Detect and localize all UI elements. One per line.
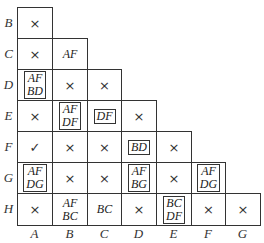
cell-D-A: AF BD xyxy=(17,69,53,101)
cell-H-C: BC xyxy=(87,193,122,226)
cell-F-C: × xyxy=(87,131,122,163)
cell-G-A: AF DG xyxy=(17,162,53,194)
cell-pairs: AF BG xyxy=(128,164,150,192)
cell-G-E: × xyxy=(156,162,192,194)
cell-G-C: × xyxy=(87,162,122,194)
cross-icon: × xyxy=(30,202,41,217)
cell-G-F: AF DG xyxy=(191,162,226,194)
cell-E-A: × xyxy=(17,100,53,132)
row-label-D: D xyxy=(0,69,17,100)
cell-F-A: ✓ xyxy=(17,131,53,163)
col-label-A: A xyxy=(17,226,52,242)
cell-D-B: × xyxy=(52,69,88,101)
cross-icon: × xyxy=(134,202,145,217)
cross-icon: × xyxy=(65,140,76,155)
cross-icon: × xyxy=(99,78,110,93)
cell-H-D: × xyxy=(121,193,157,226)
cell-pairs: AF BC xyxy=(62,197,77,223)
cell-pairs: BC xyxy=(97,203,112,216)
row-label-H: H xyxy=(0,193,17,225)
cross-icon: × xyxy=(30,16,41,31)
cell-D-C: × xyxy=(87,69,122,101)
cell-pairs: AF xyxy=(63,48,78,61)
col-label-C: C xyxy=(87,226,121,242)
cross-icon: × xyxy=(238,202,249,217)
col-label-E: E xyxy=(156,226,191,242)
cross-icon: × xyxy=(30,109,41,124)
cell-pairs: AF DG xyxy=(23,164,46,192)
cross-icon: × xyxy=(99,171,110,186)
cross-icon: × xyxy=(169,140,180,155)
cell-G-D: AF BG xyxy=(121,162,157,194)
cell-E-C: DF xyxy=(87,100,122,132)
cell-pairs: BC DF xyxy=(163,196,185,224)
cell-H-B: AF BC xyxy=(52,193,88,226)
row-label-C: C xyxy=(0,38,17,69)
cell-F-B: × xyxy=(52,131,88,163)
cross-icon: × xyxy=(99,140,110,155)
row-label-E: E xyxy=(0,100,17,131)
col-label-D: D xyxy=(121,226,156,242)
cell-pairs: AF DG xyxy=(197,164,220,192)
row-label-B: B xyxy=(0,7,17,38)
cell-H-G: × xyxy=(225,193,261,226)
cell-pairs: AF DF xyxy=(59,102,81,130)
col-label-G: G xyxy=(225,226,260,242)
cell-F-D: BD xyxy=(121,131,157,163)
cell-E-B: AF DF xyxy=(52,100,88,132)
check-icon: ✓ xyxy=(30,140,41,155)
cell-F-E: × xyxy=(156,131,192,163)
cross-icon: × xyxy=(30,47,41,62)
row-label-F: F xyxy=(0,131,17,162)
cross-icon: × xyxy=(203,202,214,217)
cell-pairs: BD xyxy=(128,140,150,155)
cross-icon: × xyxy=(65,171,76,186)
row-label-G: G xyxy=(0,162,17,193)
cell-pairs: AF BD xyxy=(24,71,46,99)
cell-E-D: × xyxy=(121,100,157,132)
cell-H-F: × xyxy=(191,193,226,226)
cell-H-A: × xyxy=(17,193,53,226)
cell-C-B: AF xyxy=(52,38,88,70)
cell-C-A: × xyxy=(17,38,53,70)
cell-G-B: × xyxy=(52,162,88,194)
cell-pairs: DF xyxy=(94,109,116,124)
cell-B-A: × xyxy=(17,7,53,39)
col-label-F: F xyxy=(191,226,225,242)
col-label-B: B xyxy=(52,226,87,242)
cross-icon: × xyxy=(134,109,145,124)
cross-icon: × xyxy=(169,171,180,186)
cell-H-E: BC DF xyxy=(156,193,192,226)
cross-icon: × xyxy=(65,78,76,93)
